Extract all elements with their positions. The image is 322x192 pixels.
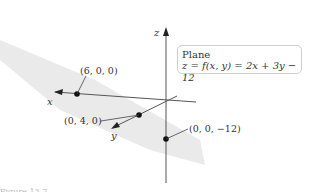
figure-caption: Figure 13.7: [0, 187, 47, 192]
plane-legend-box: Plane z = f(x, y) = 2x + 3y − 12: [177, 45, 302, 74]
legend-title: Plane: [182, 49, 297, 60]
z-axis-label: z: [154, 28, 159, 38]
point-label-0-4-0: (0, 4, 0): [64, 116, 102, 126]
point-label-6-0-0: (6, 0, 0): [80, 66, 118, 76]
legend-equation: z = f(x, y) = 2x + 3y − 12: [182, 60, 297, 84]
point-label-0-0-neg12: (0, 0, −12): [189, 124, 241, 134]
z-axis-arrow: [163, 27, 169, 36]
y-axis-label: y: [111, 131, 117, 141]
plane-surface: [0, 40, 205, 165]
x-axis-label: x: [47, 97, 53, 107]
